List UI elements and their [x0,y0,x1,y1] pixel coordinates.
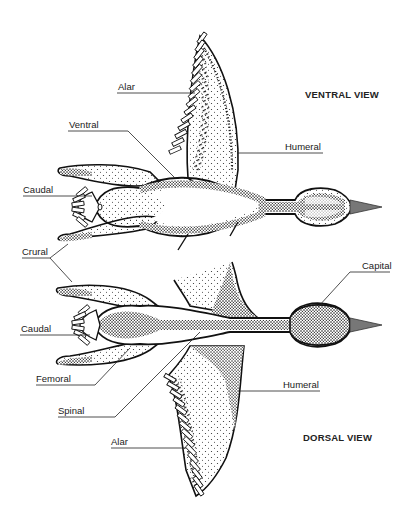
dorsal-view-bird [57,262,383,496]
label-alar-dorsal: Alar [111,437,128,447]
label-crural: Crural [22,247,48,257]
ventral-beak [350,200,382,214]
dorsal-view-title: DORSAL VIEW [303,432,372,443]
label-ventral: Ventral [69,120,99,130]
dorsal-beak [350,318,382,332]
label-alar-ventral: Alar [118,82,135,92]
label-caudal-ventral: Caudal [23,185,53,195]
ventral-view-bird [58,32,382,250]
ventral-tail [72,187,102,228]
label-caudal-dorsal: Caudal [21,324,51,334]
dorsal-head [290,305,350,345]
ventral-view-title: VENTRAL VIEW [305,89,379,100]
dorsal-wing [164,346,244,496]
label-humeral-ventral: Humeral [285,142,321,152]
label-humeral-dorsal: Humeral [283,380,319,390]
label-femoral: Femoral [36,374,71,384]
label-spinal: Spinal [58,406,84,416]
feather-tract-diagram: VENTRAL VIEW Alar Ventral Humeral Caudal… [0,0,415,528]
bird-illustration [0,0,415,528]
label-capital: Capital [362,261,392,271]
dorsal-tail [72,305,100,346]
